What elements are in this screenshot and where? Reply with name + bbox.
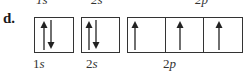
cut-label-2s: 2s [91,0,103,8]
question-label: d. [3,10,15,27]
cut-label-1s: 1s [36,0,48,8]
orbital-label-1s: 1s [33,56,45,72]
spin-up-arrow-icon [203,17,243,53]
cut-label-2p: 2p [195,0,208,8]
spin-up-down-arrows-icon [34,17,74,53]
spin-up-down-arrows-icon [81,17,120,53]
spin-up-arrow-icon [127,17,165,53]
orbital-label-2p: 2p [163,56,176,72]
spin-up-arrow-icon [165,17,203,53]
orbital-label-2s: 2s [86,56,98,72]
